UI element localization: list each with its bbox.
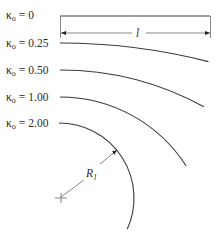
length-dimension: l [61,16,211,39]
length-label: l [136,27,139,39]
radius-arrow-icon [100,150,117,164]
curve-kappa-0.50 [60,70,204,107]
radius-dimension: Rl [55,150,117,203]
label-kappa-1.00: κo=1.00 [6,91,49,105]
radius-label: Rl [85,167,97,182]
curve-labels: κo=0 κo=0.25 κo=0.50 κo=1.00 κo=2.00 [6,9,49,131]
label-kappa-0.50: κo=0.50 [6,64,49,78]
label-kappa-0.25: κo=0.25 [6,37,49,51]
curvature-diagram: κo=0 κo=0.25 κo=0.50 κo=1.00 κo=2.00 l R… [0,0,221,244]
label-kappa-2.00: κo=2.00 [6,117,49,131]
radius-line-lower [61,180,84,197]
curves [59,16,210,229]
curve-kappa-1.00 [60,97,186,166]
curve-kappa-0.25 [60,43,208,62]
label-kappa-0: κo=0 [6,9,34,23]
curve-kappa-2.00 [59,123,134,229]
